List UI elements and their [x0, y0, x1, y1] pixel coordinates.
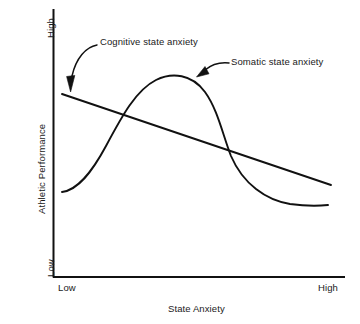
annotation-arrow-cognitive — [72, 45, 97, 76]
series-label-cognitive-state-anxiety: Cognitive state anxiety — [100, 36, 198, 47]
arrowhead-icon-cognitive — [67, 75, 75, 92]
y-axis-tick-low: Low — [45, 259, 56, 277]
x-axis-tick-high: High — [318, 282, 338, 293]
annotation-arrow-somatic — [205, 63, 229, 70]
chart-figure: Athletic Performance High Low Low High S… — [0, 0, 360, 324]
series-label-somatic-state-anxiety: Somatic state anxiety — [231, 56, 323, 67]
series-line-somatic-state-anxiety — [62, 76, 328, 206]
x-axis-title: State Anxiety — [168, 303, 225, 314]
y-axis-title: Athletic Performance — [36, 124, 47, 214]
y-axis-tick-high: High — [45, 18, 56, 38]
series-line-cognitive-state-anxiety — [62, 94, 331, 185]
x-axis-tick-low: Low — [58, 282, 76, 293]
